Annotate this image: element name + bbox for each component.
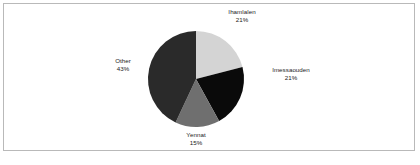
pie-label-other: Other 43% — [94, 57, 152, 73]
pie-chart-figure: Ihamlalen 21% Imessaouden 21% Yennat 15%… — [0, 0, 420, 165]
pie-label-imessaouden: Imessaouden 21% — [256, 66, 326, 82]
pie-label-yennat: Yennat 15% — [166, 131, 226, 147]
pie-label-other-name: Other — [94, 57, 152, 65]
pie-label-other-value: 43% — [94, 65, 152, 73]
pie-label-imessaouden-name: Imessaouden — [256, 66, 326, 74]
pie-label-ihamlalen-value: 21% — [210, 16, 274, 24]
pie-label-ihamlalen-name: Ihamlalen — [210, 8, 274, 16]
pie-label-yennat-name: Yennat — [166, 131, 226, 139]
chart-frame-border — [3, 3, 415, 151]
pie-label-ihamlalen: Ihamlalen 21% — [210, 8, 274, 24]
page-bottom-artifact — [4, 157, 304, 162]
pie-label-yennat-value: 15% — [166, 139, 226, 147]
pie-label-imessaouden-value: 21% — [256, 74, 326, 82]
